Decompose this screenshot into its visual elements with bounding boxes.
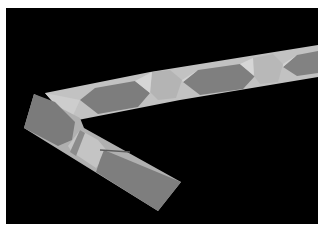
photograph (0, 0, 326, 229)
